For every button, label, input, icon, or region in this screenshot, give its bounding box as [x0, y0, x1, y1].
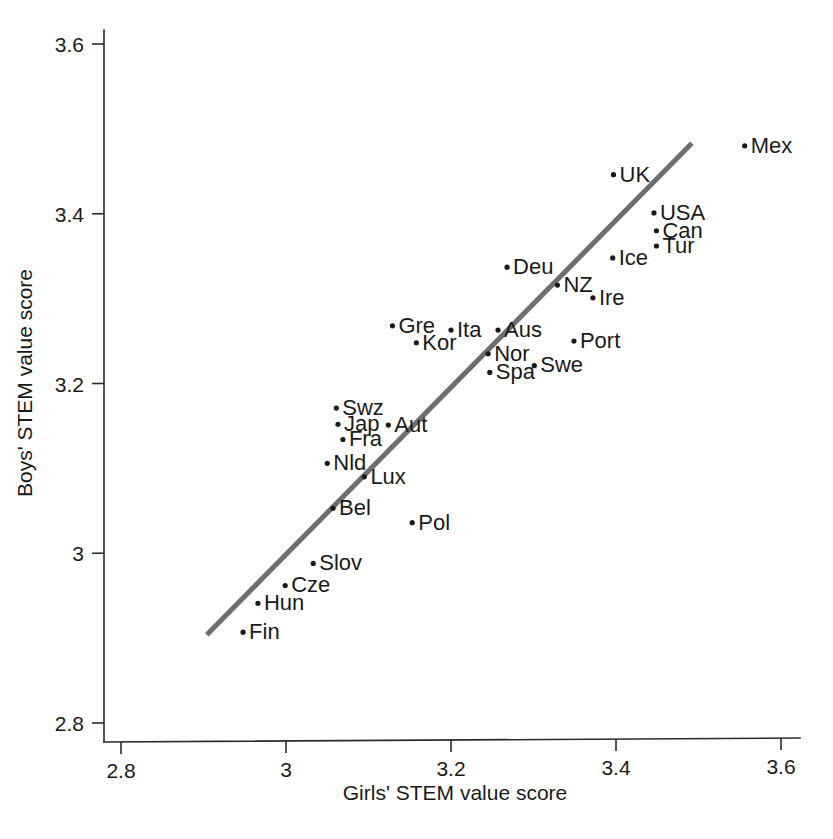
data-point-marker [330, 506, 335, 511]
data-point-label: NZ [563, 272, 592, 297]
data-point-marker [505, 265, 510, 270]
data-point: Aut [386, 412, 428, 437]
data-point-marker [334, 406, 339, 411]
data-point-label: Ita [457, 317, 482, 342]
data-point: Tur [654, 233, 695, 258]
data-point-marker [555, 282, 560, 287]
y-axis-title: Boys' STEM value score [13, 269, 36, 497]
data-point-label: Ice [619, 245, 648, 270]
data-point-label: Ire [599, 285, 625, 310]
data-point-marker [311, 561, 316, 566]
data-point-marker [410, 520, 415, 525]
data-point-label: Aut [394, 412, 427, 437]
scatter-chart: 2.833.23.43.62.833.23.43.6 MexUKUSACanTu… [0, 0, 833, 839]
data-point-label: Deu [513, 254, 553, 279]
data-point-label: Pol [418, 510, 450, 535]
x-axis-line [104, 738, 800, 742]
y-tick-label: 3.4 [55, 203, 85, 226]
data-point-marker [654, 228, 659, 233]
axis-tick-labels: 2.833.23.43.62.833.23.43.6 [55, 33, 796, 782]
data-point: Hun [255, 590, 304, 615]
data-point: Mex [742, 133, 792, 158]
plot-canvas: 2.833.23.43.62.833.23.43.6 MexUKUSACanTu… [0, 0, 833, 839]
data-point: Ice [610, 245, 648, 270]
data-point-marker [486, 351, 491, 356]
x-tick-label: 3 [280, 758, 292, 781]
data-point-marker [590, 295, 595, 300]
y-tick-label: 2.8 [55, 712, 84, 735]
data-point-marker [611, 172, 616, 177]
data-point-marker [414, 340, 419, 345]
data-point: Lux [362, 464, 406, 489]
data-point-marker [654, 243, 659, 248]
data-point-marker [390, 323, 395, 328]
data-point-label: Nld [333, 450, 366, 475]
data-point-label: Swe [540, 352, 583, 377]
data-point-marker [255, 601, 260, 606]
data-point-marker [340, 437, 345, 442]
y-tick-label: 3 [72, 542, 84, 565]
data-point: UK [611, 162, 650, 187]
data-point-label: Aus [504, 317, 542, 342]
data-point-label: Spa [496, 359, 536, 384]
data-point-marker [610, 255, 615, 260]
data-point: Fin [241, 619, 280, 644]
data-point: Swe [532, 352, 583, 377]
data-point-marker [241, 630, 246, 635]
data-point-label: Port [580, 328, 620, 353]
data-point: Deu [505, 254, 554, 279]
data-point-label: Fra [349, 426, 383, 451]
data-point-label: Hun [264, 590, 304, 615]
data-point: Nld [325, 450, 367, 475]
data-point-marker [742, 143, 747, 148]
y-tick-label: 3.2 [55, 373, 84, 396]
data-point-marker [325, 461, 330, 466]
data-point-label: UK [620, 162, 651, 187]
data-point: Ire [590, 285, 624, 310]
x-tick-label: 2.8 [106, 759, 135, 782]
fit-line [207, 143, 692, 634]
data-point-marker [651, 210, 656, 215]
data-point-label: Bel [339, 495, 371, 520]
data-point-marker [571, 338, 576, 343]
data-point-label: Kor [422, 330, 456, 355]
x-axis-title: Girls' STEM value score [343, 781, 568, 804]
data-point: Bel [330, 495, 370, 520]
data-point-marker [386, 422, 391, 427]
data-point-label: Lux [370, 464, 405, 489]
data-point-marker [335, 422, 340, 427]
data-point-marker [487, 370, 492, 375]
data-point-marker [283, 583, 288, 588]
x-tick-label: 3.4 [601, 756, 631, 779]
x-tick-label: 3.2 [436, 757, 465, 780]
data-point-label: Fin [249, 619, 280, 644]
x-tick-label: 3.6 [766, 755, 795, 778]
data-point-label: Tur [662, 233, 694, 258]
data-point: Pol [410, 510, 450, 535]
data-points: MexUKUSACanTurIceDeuNZIreGreItaAusKorPor… [241, 133, 793, 644]
data-point: Port [571, 328, 620, 353]
y-tick-label: 3.6 [55, 33, 84, 56]
data-point-label: Mex [751, 133, 793, 158]
data-point-marker [362, 474, 367, 479]
data-point-marker [495, 327, 500, 332]
regression-line [207, 143, 692, 634]
